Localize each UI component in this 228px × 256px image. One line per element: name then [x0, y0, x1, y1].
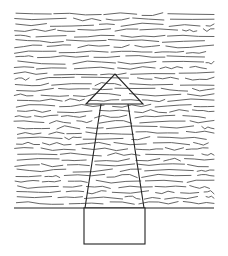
base-box: [84, 208, 145, 244]
wavy-stroke: [131, 74, 175, 75]
wavy-stroke: [202, 153, 214, 155]
wavy-stroke: [16, 202, 63, 205]
wavy-stroke: [190, 186, 210, 189]
wavy-stroke: [14, 67, 34, 68]
wavy-stroke: [193, 89, 215, 91]
wavy-stroke: [41, 148, 75, 150]
wavy-stroke: [186, 131, 214, 133]
wavy-stroke: [15, 18, 66, 19]
wavy-stroke: [58, 111, 92, 113]
wavy-stroke: [60, 153, 101, 156]
wavy-stroke: [135, 115, 175, 118]
wavy-stroke: [119, 186, 153, 188]
wavy-stroke: [18, 128, 50, 129]
wavy-stroke: [165, 197, 198, 200]
wavy-stroke: [14, 72, 47, 74]
wavy-stroke: [78, 29, 111, 30]
wavy-stroke: [187, 180, 214, 182]
wavy-stroke: [95, 159, 130, 162]
wavy-stroke: [65, 137, 81, 140]
wavy-stroke: [16, 105, 54, 107]
wavy-stroke: [99, 24, 114, 25]
wavy-stroke: [59, 89, 90, 90]
wavy-stroke: [60, 105, 105, 107]
wavy-stroke: [168, 35, 215, 36]
wavy-stroke: [186, 148, 208, 150]
wavy-stroke: [14, 94, 33, 96]
wavy-stroke: [41, 95, 69, 96]
wavy-stroke: [183, 116, 206, 118]
wavy-stroke: [47, 45, 70, 47]
wavy-stroke: [52, 84, 92, 86]
wavy-stroke: [142, 100, 165, 102]
wavy-stroke: [122, 100, 140, 101]
wavy-stroke: [82, 148, 128, 151]
wavy-stroke: [17, 191, 61, 192]
wavy-stroke: [142, 174, 191, 177]
wavy-stroke: [168, 14, 214, 15]
wavy-stroke: [83, 138, 123, 139]
wavy-stroke: [183, 30, 197, 32]
wavy-stroke: [73, 169, 112, 172]
wavy-stroke: [145, 180, 182, 182]
wavy-stroke: [135, 46, 160, 48]
wavy-stroke: [18, 137, 63, 138]
wavy-stroke: [113, 104, 151, 107]
wavy-stroke: [144, 198, 160, 200]
wavy-stroke: [54, 13, 101, 15]
wavy-stroke: [58, 197, 83, 198]
wavy-stroke: [49, 132, 64, 134]
wavy-stroke: [58, 30, 75, 31]
wavy-stroke: [114, 45, 129, 48]
wavy-stroke: [168, 99, 214, 101]
wavy-stroke: [133, 18, 164, 20]
wavy-stroke: [108, 40, 158, 42]
wavy-stroke: [63, 186, 82, 188]
wavy-stroke: [74, 18, 101, 21]
wavy-stroke: [136, 159, 160, 161]
wavy-stroke: [89, 100, 119, 102]
wavy-stroke: [17, 133, 41, 135]
wavy-stroke: [156, 191, 175, 193]
wavy-stroke: [161, 88, 187, 91]
wavy-stroke: [15, 181, 39, 183]
wavy-stroke: [206, 196, 214, 198]
wavy-stroke: [190, 121, 214, 123]
wavy-stroke: [64, 174, 104, 175]
wavy-stroke: [138, 78, 153, 79]
wavy-stroke: [118, 67, 155, 70]
wavy-stroke: [146, 154, 194, 155]
wavy-stroke: [202, 127, 214, 129]
wavy-stroke: [66, 40, 106, 41]
wavy-stroke: [15, 29, 56, 31]
wavy-stroke: [197, 170, 214, 171]
wavy-stroke: [190, 66, 207, 68]
wavy-stroke: [15, 78, 29, 80]
wavy-stroke: [16, 13, 51, 14]
wavy-stroke: [179, 72, 214, 73]
wavy-stroke: [66, 191, 83, 192]
wavy-stroke: [163, 61, 204, 62]
wavy-stroke: [18, 186, 59, 188]
wavy-stroke: [15, 83, 48, 85]
wavy-stroke: [129, 94, 180, 96]
wavy-stroke: [87, 191, 106, 194]
wavy-stroke: [16, 176, 41, 177]
wavy-stroke: [155, 77, 179, 79]
wavy-stroke: [142, 13, 163, 16]
wavy-stroke: [136, 132, 178, 133]
wavy-stroke: [160, 126, 193, 128]
wavy-stroke: [198, 175, 214, 176]
wavy-stroke: [15, 45, 42, 48]
wavy-stroke: [85, 197, 123, 199]
wavy-stroke: [126, 56, 165, 58]
wavy-stroke: [167, 56, 205, 57]
wavy-stroke: [15, 148, 33, 149]
wavy-stroke: [99, 121, 132, 124]
wavy-stroke: [78, 45, 109, 48]
wavy-stroke: [87, 186, 111, 188]
wavy-stroke: [112, 191, 148, 193]
wavy-stroke: [165, 148, 183, 151]
wavy-stroke: [65, 99, 84, 101]
wavy-stroke: [94, 56, 120, 57]
